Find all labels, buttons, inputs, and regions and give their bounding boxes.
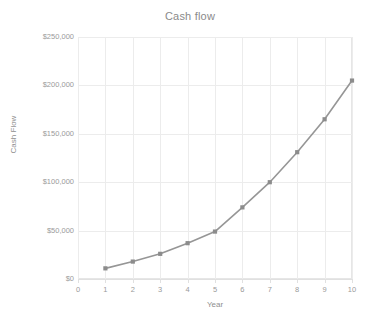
- x-axis-tick-labels: 012345678910: [0, 0, 380, 324]
- x-tick-label: 2: [121, 285, 145, 294]
- x-tick-label: 8: [285, 285, 309, 294]
- x-tick-mark: [297, 279, 298, 283]
- x-tick-mark: [105, 279, 106, 283]
- x-tick-label: 9: [313, 285, 337, 294]
- x-tick-label: 6: [230, 285, 254, 294]
- x-tick-mark: [215, 279, 216, 283]
- x-tick-mark: [352, 279, 353, 283]
- x-tick-label: 7: [258, 285, 282, 294]
- x-tick-label: 10: [340, 285, 364, 294]
- cash-flow-line-chart: Cash flow Cash Flow 1: 110002: 180003: 2…: [0, 0, 380, 324]
- x-tick-mark: [242, 279, 243, 283]
- x-tick-mark: [325, 279, 326, 283]
- x-tick-mark: [133, 279, 134, 283]
- x-tick-label: 1: [93, 285, 117, 294]
- x-axis-title: Year: [78, 300, 352, 309]
- x-tick-label: 0: [66, 285, 90, 294]
- x-tick-mark: [78, 279, 79, 283]
- x-tick-mark: [160, 279, 161, 283]
- x-tick-label: 3: [148, 285, 172, 294]
- x-tick-mark: [270, 279, 271, 283]
- x-tick-label: 4: [176, 285, 200, 294]
- x-tick-label: 5: [203, 285, 227, 294]
- x-tick-mark: [188, 279, 189, 283]
